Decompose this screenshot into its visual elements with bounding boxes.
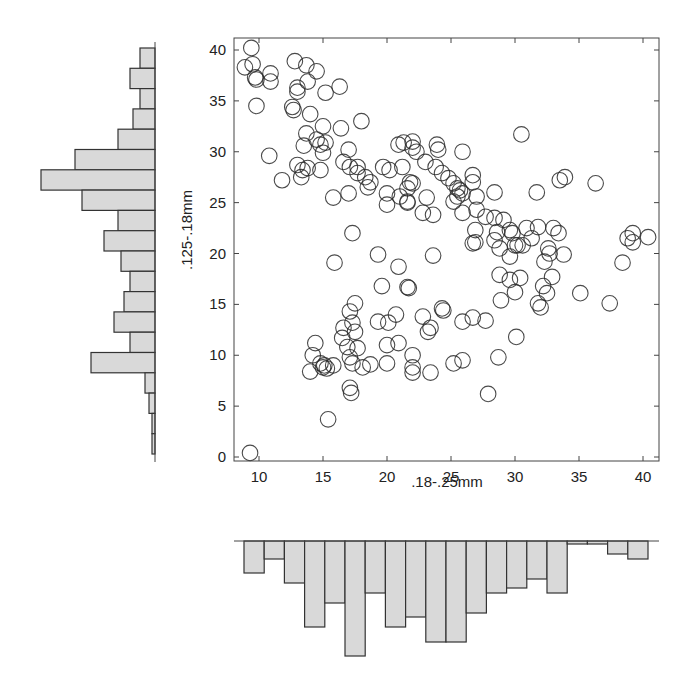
histogram-bar bbox=[305, 541, 325, 627]
data-point bbox=[625, 225, 641, 241]
data-point bbox=[455, 353, 471, 369]
histogram-bar bbox=[466, 541, 486, 613]
data-point bbox=[507, 284, 523, 300]
data-point bbox=[455, 314, 471, 330]
data-point bbox=[370, 247, 386, 263]
y-tick-label: 20 bbox=[209, 245, 226, 262]
data-point bbox=[318, 85, 334, 101]
histogram-bar bbox=[114, 312, 155, 332]
data-point bbox=[529, 185, 545, 201]
x-tick-label: 40 bbox=[635, 468, 652, 485]
data-point bbox=[296, 138, 312, 154]
data-point bbox=[423, 365, 439, 381]
y-marginal-histogram bbox=[41, 42, 155, 462]
histogram-bar bbox=[133, 109, 155, 129]
data-point bbox=[446, 356, 462, 372]
data-point bbox=[551, 225, 567, 241]
data-point bbox=[465, 167, 481, 183]
data-point bbox=[556, 247, 572, 263]
histogram-bar bbox=[426, 541, 446, 642]
data-point bbox=[332, 79, 348, 95]
data-point bbox=[429, 137, 445, 153]
data-point bbox=[615, 255, 631, 271]
data-point bbox=[327, 255, 343, 271]
data-point bbox=[420, 324, 436, 340]
scatter-points bbox=[237, 40, 656, 461]
data-point bbox=[425, 207, 441, 223]
histogram-bar bbox=[124, 292, 155, 312]
data-point bbox=[274, 172, 290, 188]
data-point bbox=[544, 269, 560, 285]
data-point bbox=[415, 309, 431, 325]
data-point bbox=[409, 144, 425, 160]
data-point bbox=[244, 40, 260, 56]
data-point bbox=[345, 315, 361, 331]
data-point bbox=[318, 135, 334, 151]
y-tick-label: 35 bbox=[209, 92, 226, 109]
histogram-bar bbox=[628, 541, 648, 559]
data-point bbox=[419, 190, 435, 206]
data-point bbox=[345, 225, 361, 241]
data-point bbox=[333, 121, 349, 137]
histogram-bar bbox=[121, 251, 155, 271]
histogram-bar bbox=[104, 231, 155, 251]
data-point bbox=[350, 340, 366, 356]
data-point bbox=[480, 386, 496, 402]
data-point bbox=[405, 347, 421, 363]
data-point bbox=[493, 293, 509, 309]
y-tick-label: 0 bbox=[218, 448, 226, 465]
data-point bbox=[625, 235, 641, 251]
histogram-bar bbox=[325, 541, 345, 603]
histogram-bar bbox=[507, 541, 527, 588]
data-point bbox=[391, 259, 407, 275]
data-point bbox=[375, 159, 391, 175]
y-tick-label: 25 bbox=[209, 194, 226, 211]
histogram-bar bbox=[406, 541, 426, 617]
histogram-bar bbox=[118, 210, 155, 230]
histogram-bar bbox=[149, 393, 155, 413]
histogram-bar bbox=[385, 541, 405, 627]
data-point bbox=[446, 194, 462, 210]
histogram-bar bbox=[527, 541, 547, 579]
histogram-bar bbox=[264, 541, 284, 559]
data-point bbox=[552, 172, 568, 188]
data-point bbox=[242, 445, 258, 461]
data-point bbox=[640, 229, 656, 245]
data-point bbox=[341, 142, 357, 158]
data-point bbox=[374, 278, 390, 294]
figure: 101520253035400510152025303540 .18-.25mm… bbox=[0, 0, 695, 688]
x-tick-label: 20 bbox=[379, 468, 396, 485]
data-point bbox=[320, 412, 336, 428]
histogram-bar bbox=[145, 373, 155, 393]
data-point bbox=[249, 98, 265, 114]
data-point bbox=[492, 267, 508, 283]
histogram-bar bbox=[345, 541, 365, 656]
data-point bbox=[620, 230, 636, 246]
data-point bbox=[391, 335, 407, 351]
histogram-bar bbox=[446, 541, 466, 642]
histogram-bar bbox=[486, 541, 506, 593]
data-point bbox=[557, 169, 573, 185]
histogram-bar bbox=[118, 129, 155, 149]
data-point bbox=[315, 145, 331, 161]
histogram-bar bbox=[547, 541, 567, 593]
histogram-bar bbox=[608, 541, 628, 554]
data-point bbox=[401, 280, 417, 296]
histogram-bar bbox=[75, 150, 155, 170]
data-point bbox=[533, 300, 549, 316]
y-tick-label: 15 bbox=[209, 295, 226, 312]
x-tick-label: 30 bbox=[507, 468, 524, 485]
x-tick-label: 15 bbox=[315, 468, 332, 485]
histogram-bar bbox=[130, 68, 155, 88]
y-tick-label: 30 bbox=[209, 143, 226, 160]
data-point bbox=[418, 154, 434, 170]
data-point bbox=[354, 113, 370, 129]
histogram-bar bbox=[140, 89, 155, 109]
data-point bbox=[502, 272, 518, 288]
histogram-bar bbox=[130, 332, 155, 352]
data-point bbox=[512, 270, 528, 286]
data-point bbox=[430, 142, 446, 158]
y-tick-label: 5 bbox=[218, 397, 226, 414]
data-point bbox=[588, 175, 604, 191]
data-point bbox=[343, 385, 359, 401]
